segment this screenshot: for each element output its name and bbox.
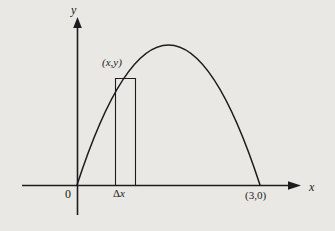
x-axis-label: x: [309, 181, 314, 193]
delta-x-label: Δx: [113, 188, 125, 199]
delta-x-variable: x: [120, 187, 125, 199]
y-axis-label: y: [71, 4, 76, 16]
figure-container: y x 0 (x,y) Δx (3,0): [0, 0, 335, 231]
point-xy-label: (x,y): [102, 57, 122, 68]
plot-canvas: [0, 0, 335, 231]
y-axis-arrowhead-icon: [73, 17, 82, 28]
riemann-rectangle-outline: [116, 79, 136, 186]
riemann-rectangle: [116, 79, 136, 186]
x-intercept-label: (3,0): [245, 190, 266, 201]
origin-label: 0: [65, 188, 71, 200]
x-axis-arrowhead-icon: [288, 181, 301, 190]
